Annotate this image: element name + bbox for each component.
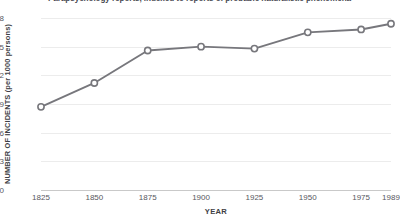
data-point-marker	[91, 80, 97, 86]
x-tick-label: 1875	[139, 193, 157, 202]
y-tick-label: 0	[0, 186, 4, 195]
x-axis-line	[41, 190, 391, 191]
chart-title-clipped: Parapsychology reports, indexed to repor…	[0, 0, 399, 7]
data-point-marker	[198, 44, 204, 50]
x-tick-label: 1925	[246, 193, 264, 202]
x-tick-label: 1850	[85, 193, 103, 202]
x-axis-title: YEAR	[41, 207, 391, 216]
data-point-marker	[145, 47, 151, 53]
data-point-marker	[358, 26, 364, 32]
y-tick-label: 1.5	[0, 42, 4, 51]
x-tick-label: 1975	[352, 193, 370, 202]
data-point-marker	[388, 21, 394, 27]
y-tick-label: 0.9	[0, 100, 4, 109]
data-point-marker	[305, 29, 311, 35]
data-series-layer	[41, 18, 391, 190]
y-tick-label: 0.3	[0, 157, 4, 166]
y-tick-label: 1.8	[0, 14, 4, 23]
chart-title: Parapsychology reports, indexed to repor…	[48, 0, 351, 3]
x-tick-label: 1950	[299, 193, 317, 202]
data-point-marker	[251, 45, 257, 51]
data-point-marker	[38, 104, 44, 110]
x-tick-label: 1825	[32, 193, 50, 202]
series-line	[41, 24, 391, 107]
y-tick-label: 1.2	[0, 71, 4, 80]
x-tick-label: 1989	[382, 193, 400, 202]
y-tick-label: 0.6	[0, 128, 4, 137]
x-tick-label: 1900	[192, 193, 210, 202]
